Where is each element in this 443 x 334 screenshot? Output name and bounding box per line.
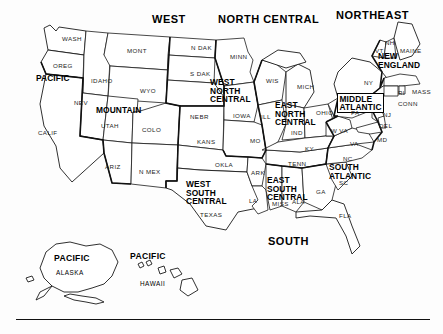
state-label-texas: TEXAS xyxy=(200,212,222,218)
division-label-mountain: MOUNTAIN xyxy=(96,106,141,114)
state-label-iowa: IOWA xyxy=(233,113,251,119)
region-label-north-central: NORTH CENTRAL xyxy=(218,14,319,25)
state-label-vt: VT xyxy=(375,48,384,54)
state-label-ala: ALA xyxy=(292,199,305,205)
division-label-pacific: PACIFIC xyxy=(36,74,70,82)
inset-division-label-hawaii: PACIFIC xyxy=(130,252,166,261)
state-label-idaho: IDAHO xyxy=(91,78,113,84)
division-label-west-north-central: WESTNORTHCENTRAL xyxy=(210,78,251,104)
hawaii-inset-shape xyxy=(138,260,198,296)
state-label-mass: MASS xyxy=(412,89,431,95)
inset-state-label-alaska: ALASKA xyxy=(56,270,84,276)
state-label-ohio: OHIO xyxy=(316,110,333,116)
footer-rule xyxy=(16,319,430,320)
state-label-fla: FLA xyxy=(339,213,352,219)
division-label-new-england: NEWENGLAND xyxy=(378,52,420,69)
state-label-nh: NH xyxy=(385,40,395,46)
state-label-wyo: WYO xyxy=(140,88,156,94)
state-label-mont: MONT xyxy=(127,48,147,54)
state-label-wis: WIS xyxy=(266,78,279,84)
division-label-middle-atlantic: MIDDLEATLANTIC xyxy=(337,93,384,113)
state-label-sc: SC xyxy=(339,180,348,186)
state-label-md: MD xyxy=(377,137,387,143)
state-label-del: DEL xyxy=(379,123,392,129)
state-label-wva: W VA xyxy=(331,128,348,134)
state-label-nev: NEV xyxy=(74,100,88,106)
inset-division-label-alaska: PACIFIC xyxy=(54,254,90,263)
state-label-minn: MINN xyxy=(230,54,247,60)
division-label-east-north-central: EASTNORTHCENTRAL xyxy=(275,101,316,127)
state-label-colo: COLO xyxy=(142,127,161,133)
state-label-nebr: NEBR xyxy=(190,114,209,120)
us-census-regions-map: WESTNORTH CENTRALNORTHEASTSOUTHPACIFICMO… xyxy=(0,0,443,334)
division-label-south-atlantic: SOUTHATLANTIC xyxy=(329,163,371,180)
state-label-ark: ARK xyxy=(251,170,265,176)
state-label-mo: MO xyxy=(250,138,261,144)
state-label-maine: MAINE xyxy=(400,48,422,54)
state-label-ind: IND xyxy=(291,130,303,136)
state-label-la: LA xyxy=(249,198,257,204)
state-label-nmex: N MEX xyxy=(139,169,161,175)
region-label-west: WEST xyxy=(152,14,186,25)
state-label-sdak: S DAK xyxy=(190,71,211,77)
state-label-va: VA xyxy=(350,141,359,147)
state-label-ri: RI xyxy=(398,90,405,96)
state-label-ny: NY xyxy=(364,80,373,86)
state-label-utah: UTAH xyxy=(101,123,119,129)
state-label-wash: WASH xyxy=(62,36,82,42)
state-label-ky: KY xyxy=(305,146,314,152)
division-label-west-south-central: WESTSOUTHCENTRAL xyxy=(186,180,227,206)
state-label-nj: NJ xyxy=(383,112,391,118)
state-label-calif: CALIF xyxy=(38,130,58,136)
region-label-northeast: NORTHEAST xyxy=(336,10,409,21)
state-label-conn: CONN xyxy=(398,101,418,107)
state-label-kans: KANS xyxy=(197,139,215,145)
state-label-ariz: ARIZ xyxy=(105,164,121,170)
region-label-south: SOUTH xyxy=(268,236,309,247)
inset-state-label-hawaii: HAWAII xyxy=(140,281,165,287)
state-label-ill: ILL xyxy=(261,114,271,120)
state-label-pa: PA xyxy=(351,110,360,116)
state-label-mich: MICH xyxy=(297,84,314,90)
state-label-nc: NC xyxy=(343,156,353,162)
state-label-ga: GA xyxy=(316,189,326,195)
state-label-okla: OKLA xyxy=(215,162,233,168)
state-label-miss: MISS xyxy=(272,201,289,207)
state-label-ndak: N DAK xyxy=(191,45,212,51)
state-label-oreg: OREG xyxy=(53,63,73,69)
state-label-tenn: TENN xyxy=(288,161,306,167)
